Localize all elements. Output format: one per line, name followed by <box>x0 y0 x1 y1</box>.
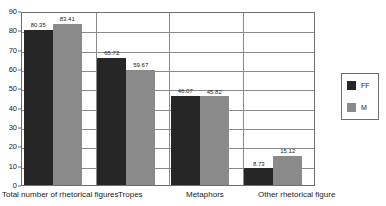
legend-label: M <box>361 104 367 111</box>
x-axis-category-label: Tropes <box>118 190 143 200</box>
y-axis-tick-label: 80 <box>9 28 17 36</box>
bar-ff-2 <box>171 96 200 185</box>
bar-m-0 <box>53 24 82 185</box>
y-axis-tick-label: 0 <box>13 182 17 190</box>
bar-value-label: 83.41 <box>50 16 85 22</box>
x-axis-category-label: Metaphors <box>186 190 224 200</box>
y-axis-tick-label: 40 <box>9 105 17 113</box>
y-axis-tick-label: 60 <box>9 66 17 74</box>
x-axis-category-label: Total number of rhetorical figures <box>2 190 119 200</box>
legend-label: FF <box>361 82 370 89</box>
bar-value-label: 8.73 <box>241 161 276 167</box>
y-axis-tick-label: 70 <box>9 47 17 55</box>
x-axis-category-label: Other rhetorical figure <box>258 190 335 200</box>
bar-m-1 <box>126 70 155 185</box>
bar-ff-0 <box>24 30 53 185</box>
bar-m-3 <box>273 156 302 185</box>
legend-swatch-ff <box>347 81 356 90</box>
x-axis-labels: Total number of rhetorical figuresTropes… <box>0 190 386 204</box>
bar-ff-3 <box>244 168 273 185</box>
y-axis-tick-label: 10 <box>9 163 17 171</box>
bar-chart: 9080706050403020100 80.3583.4165.7259.67… <box>0 0 386 206</box>
plot-area: 80.3583.4165.7259.6746.0745.828.7315.12 <box>21 12 315 186</box>
y-axis-tick-label: 90 <box>9 8 17 16</box>
y-axis-tick-label: 20 <box>9 144 17 152</box>
bar-value-label: 80.35 <box>21 22 56 28</box>
y-axis-tick-label: 30 <box>9 124 17 132</box>
bar-m-2 <box>200 96 229 185</box>
y-axis: 9080706050403020100 <box>0 12 21 186</box>
legend-item-ff: FF <box>347 81 370 90</box>
bar-value-label: 65.72 <box>94 50 129 56</box>
group-separator <box>243 13 244 185</box>
bar-ff-1 <box>97 58 126 185</box>
y-axis-tick-label: 50 <box>9 86 17 94</box>
bar-value-label: 15.12 <box>270 148 305 154</box>
bar-value-label: 45.82 <box>197 89 232 95</box>
bar-value-label: 59.67 <box>123 62 158 68</box>
legend: FFM <box>341 73 379 120</box>
legend-item-m: M <box>347 103 367 112</box>
legend-swatch-m <box>347 103 356 112</box>
